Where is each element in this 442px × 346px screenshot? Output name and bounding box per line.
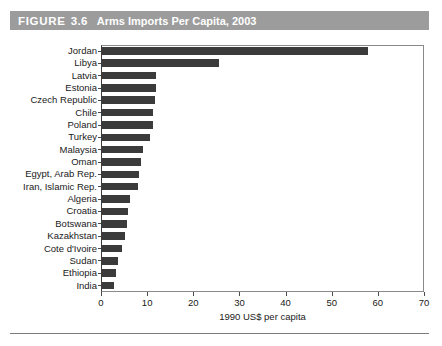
x-axis-tick	[332, 292, 333, 296]
bar	[101, 134, 150, 142]
bar	[101, 72, 156, 80]
y-axis-label: Poland	[0, 119, 97, 131]
x-axis-tick	[378, 292, 379, 296]
bar-row	[101, 230, 424, 242]
bar-chart: JordanLibyaLatviaEstoniaCzech RepublicCh…	[0, 34, 442, 314]
bar	[101, 84, 156, 92]
bar	[101, 171, 139, 179]
bar	[101, 195, 130, 203]
bar	[101, 121, 153, 129]
y-axis-label: Algeria	[0, 193, 97, 205]
y-axis-category-labels: JordanLibyaLatviaEstoniaCzech RepublicCh…	[0, 45, 97, 292]
bar-row	[101, 156, 424, 168]
bar	[101, 47, 368, 55]
bar	[101, 109, 153, 117]
bar	[101, 183, 138, 191]
bar	[101, 282, 114, 290]
x-axis-tick	[193, 292, 194, 296]
bar	[101, 146, 143, 154]
bar	[101, 208, 128, 216]
bar-row	[101, 119, 424, 131]
x-axis-tick-label: 50	[326, 297, 337, 308]
bar-row	[101, 168, 424, 180]
bar-row	[101, 193, 424, 205]
bar-row	[101, 144, 424, 156]
bar-row	[101, 45, 424, 57]
y-axis-label: Libya	[0, 57, 97, 69]
bar-row	[101, 255, 424, 267]
y-axis-label: Iran, Islamic Rep.	[0, 181, 97, 193]
bar-row	[101, 181, 424, 193]
x-axis-tick-label: 10	[142, 297, 153, 308]
bar-row	[101, 82, 424, 94]
y-axis-label: Oman	[0, 156, 97, 168]
bars-layer	[101, 45, 424, 292]
bar-row	[101, 280, 424, 292]
bar	[101, 96, 155, 104]
x-axis-tick	[101, 292, 102, 296]
x-axis-tick	[239, 292, 240, 296]
x-axis-tick-label: 70	[419, 297, 430, 308]
bar-row	[101, 70, 424, 82]
bar	[101, 220, 127, 228]
y-axis-label: Chile	[0, 107, 97, 119]
bar-row	[101, 107, 424, 119]
bar-row	[101, 243, 424, 255]
y-axis-label: Latvia	[0, 70, 97, 82]
bar-row	[101, 267, 424, 279]
bar	[101, 158, 141, 166]
y-axis-label: Cote d'Ivoire	[0, 243, 97, 255]
y-axis-label: Czech Republic	[0, 94, 97, 106]
x-axis-tick	[424, 292, 425, 296]
bar-row	[101, 94, 424, 106]
x-axis-title: 1990 US$ per capita	[101, 311, 424, 322]
x-axis-tick	[147, 292, 148, 296]
bar-row	[101, 57, 424, 69]
bar-row	[101, 205, 424, 217]
x-axis-tick-label: 60	[373, 297, 384, 308]
figure-title-bar: FIGURE 3.6 Arms Imports Per Capita, 2003	[10, 11, 429, 30]
bar	[101, 232, 125, 240]
y-axis-label: Botswana	[0, 218, 97, 230]
figure-caption: Arms Imports Per Capita, 2003	[97, 15, 257, 27]
bar-row	[101, 218, 424, 230]
bar	[101, 257, 118, 265]
y-axis-label: India	[0, 280, 97, 292]
y-axis-label: Kazakhstan	[0, 230, 97, 242]
y-axis-label: Sudan	[0, 255, 97, 267]
x-axis-tick-label: 40	[280, 297, 291, 308]
x-axis-tick-label: 30	[234, 297, 245, 308]
figure-number: 3.6	[71, 15, 88, 27]
y-axis-label: Croatia	[0, 205, 97, 217]
bottom-rule	[10, 333, 429, 334]
figure-label-word: FIGURE	[18, 15, 66, 27]
y-axis-label: Egypt, Arab Rep.	[0, 168, 97, 180]
bar	[101, 59, 219, 67]
x-axis-tick-label: 20	[188, 297, 199, 308]
bar-row	[101, 131, 424, 143]
x-axis-tick	[286, 292, 287, 296]
bar	[101, 245, 122, 253]
x-axis-tick-label: 0	[98, 297, 103, 308]
y-axis-label: Estonia	[0, 82, 97, 94]
y-axis-label: Ethiopia	[0, 267, 97, 279]
y-axis-label: Jordan	[0, 45, 97, 57]
y-axis-label: Turkey	[0, 131, 97, 143]
bar	[101, 269, 116, 277]
y-axis-label: Malaysia	[0, 144, 97, 156]
